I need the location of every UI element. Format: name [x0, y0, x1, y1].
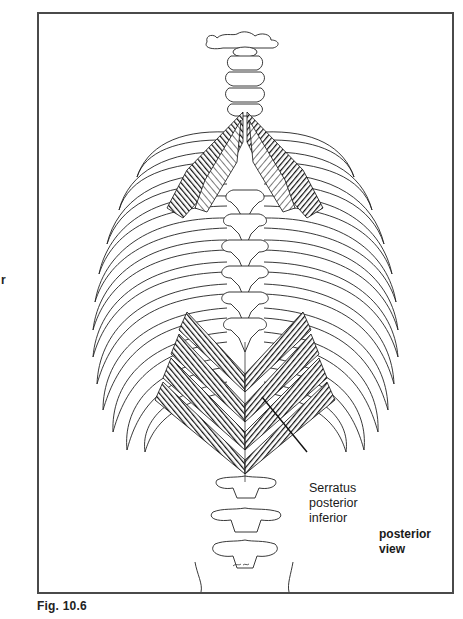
- figure-caption: Fig. 10.6: [37, 599, 87, 613]
- muscle-label-line-2: posterior: [309, 496, 358, 511]
- view-label-line-2: view: [379, 542, 431, 557]
- cervical-vertebrae: [226, 56, 265, 116]
- cropped-margin-text: r: [1, 273, 6, 287]
- muscle-label-line-1: Serratus: [309, 481, 358, 496]
- lumbar-vertebrae: [195, 476, 293, 592]
- serratus-posterior-inferior-label: Serratus posterior inferior: [309, 481, 358, 526]
- view-label: posterior view: [379, 527, 431, 557]
- view-label-line-1: posterior: [379, 527, 431, 542]
- atlas-vertebra: [206, 32, 278, 57]
- posterior-thorax-illustration: [37, 12, 454, 594]
- muscle-label-line-3: inferior: [309, 511, 358, 526]
- thoracic-vertebrae: [222, 190, 269, 352]
